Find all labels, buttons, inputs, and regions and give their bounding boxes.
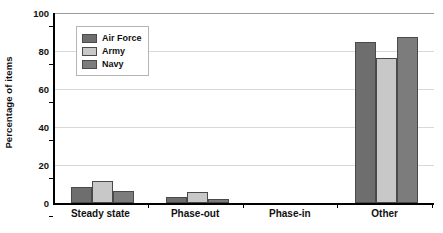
y-tick-label: 40	[19, 122, 49, 133]
bar-group	[166, 13, 229, 203]
x-axis-label: Phase-out	[171, 208, 219, 219]
legend-swatch-icon	[82, 60, 97, 69]
bar-group	[260, 13, 323, 203]
x-axis-label: Other	[371, 208, 398, 219]
x-axis-label: Phase-in	[269, 208, 311, 219]
y-tick-label: 60	[19, 84, 49, 95]
x-axis-label: Steady state	[71, 208, 130, 219]
bar-group	[355, 13, 418, 203]
bar-army	[187, 192, 208, 203]
legend-label: Air Force	[102, 33, 142, 43]
bar-chart: Percentage of items 020406080100 Steady …	[0, 0, 443, 233]
legend-item: Air Force	[82, 32, 142, 44]
bar-navy	[113, 191, 134, 203]
y-tick-label: 100	[19, 8, 49, 19]
bar-air-force	[355, 42, 376, 203]
bar-air-force	[71, 187, 92, 203]
bar-navy	[397, 37, 418, 203]
bar-army	[92, 181, 113, 203]
legend-label: Army	[102, 46, 125, 56]
legend-item: Navy	[82, 58, 142, 70]
legend-item: Army	[82, 45, 142, 57]
y-axis-title: Percentage of items	[0, 0, 16, 205]
y-axis-ticks: 020406080100	[15, 13, 49, 203]
y-tick-label: 80	[19, 46, 49, 57]
bar-army	[376, 58, 397, 203]
legend: Air ForceArmyNavy	[76, 26, 149, 76]
legend-label: Navy	[102, 59, 124, 69]
y-tick-label: 20	[19, 160, 49, 171]
legend-swatch-icon	[82, 47, 97, 56]
x-axis-labels: Steady statePhase-outPhase-inOther	[53, 208, 434, 228]
legend-swatch-icon	[82, 34, 97, 43]
y-axis-title-label: Percentage of items	[3, 56, 14, 148]
y-tick-label: 0	[19, 198, 49, 209]
